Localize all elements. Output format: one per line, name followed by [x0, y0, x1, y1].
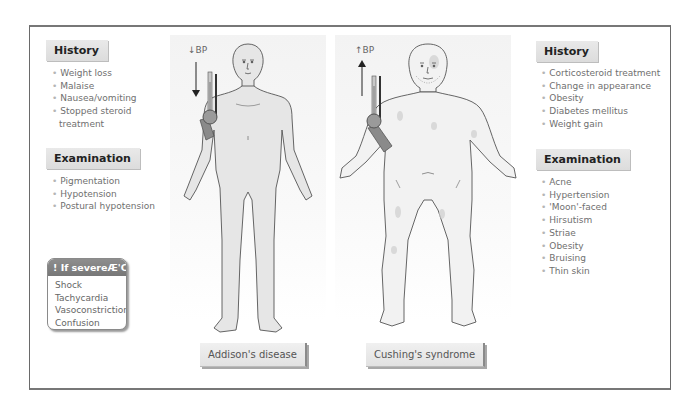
- list-item: Change in appearance: [541, 80, 660, 93]
- cushing-history-title: History: [544, 45, 589, 58]
- list-item: Obesity: [541, 240, 610, 253]
- cushing-caption: Cushing's syndrome: [366, 343, 485, 367]
- list-item: Striae: [541, 227, 610, 240]
- cushing-examination-tag: Examination: [536, 149, 630, 170]
- cushing-examination-title: Examination: [544, 153, 621, 166]
- addison-caption: Addison's disease: [200, 343, 307, 367]
- list-item: Diabetes mellitus: [541, 105, 660, 118]
- list-item: Bruising: [541, 252, 610, 265]
- cushing-history-tag: History: [536, 41, 598, 62]
- list-item: Weight gain: [541, 118, 660, 131]
- cushing-history-list: Corticosteroid treatment Change in appea…: [541, 67, 660, 131]
- list-item: Hirsutism: [541, 214, 610, 227]
- cushing-bp-label: ↑BP: [355, 45, 374, 55]
- list-item: Thin skin: [541, 265, 610, 278]
- list-item: Acne: [541, 176, 610, 189]
- list-item: Corticosteroid treatment: [541, 67, 660, 80]
- cushing-examination-list: Acne Hypertension 'Moon'-faced Hirsutism…: [541, 176, 610, 278]
- list-item: 'Moon'-faced: [541, 201, 610, 214]
- list-item: Hypertension: [541, 189, 610, 202]
- list-item: Obesity: [541, 92, 660, 105]
